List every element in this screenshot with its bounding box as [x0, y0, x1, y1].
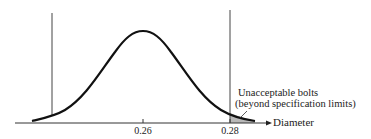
normal-distribution-diagram: 0.26 0.28 Diameter Unacceptable bolts (b…	[0, 0, 371, 139]
tick-label-mean: 0.26	[134, 125, 152, 136]
tick-label-limit: 0.28	[221, 125, 239, 136]
annotation-line1: Unacceptable bolts	[238, 87, 318, 98]
x-axis-arrow-icon	[266, 121, 272, 126]
annotation-line2: (beyond specification limits)	[235, 98, 356, 110]
annotation-leader	[240, 111, 247, 118]
normal-curve	[32, 31, 255, 121]
axis-label: Diameter	[273, 116, 314, 128]
